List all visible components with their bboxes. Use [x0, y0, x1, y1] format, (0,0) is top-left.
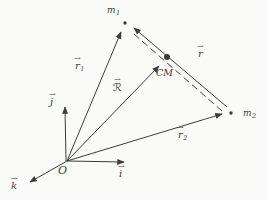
label-origin: O: [58, 165, 67, 176]
label-j-unit-vector: →j: [50, 97, 53, 107]
label-m1-base: m: [107, 5, 116, 15]
r1-position-vector-line: [67, 32, 121, 161]
vector-arrow-accent: →: [74, 56, 81, 62]
label-m2-sub: 2: [252, 112, 256, 120]
label-center-of-mass: CM: [156, 68, 173, 78]
m2-point: [229, 111, 232, 114]
label-m2-base: m: [243, 108, 252, 118]
vector-arrow-accent: →: [10, 176, 18, 182]
vector-arrow-accent: →: [118, 164, 123, 170]
label-m2: m2: [243, 109, 256, 118]
m1-m2-dashed-line: [134, 34, 222, 111]
vector-arrow-accent: →: [197, 44, 204, 50]
center-of-mass-point: [164, 54, 170, 60]
label-r1-vector: →r1: [75, 61, 84, 71]
label-r1-sub: 1: [80, 65, 84, 73]
i-unit-vector-line: [67, 161, 124, 162]
vector-arrow-accent: →: [177, 125, 184, 131]
label-k-unit-vector: →k: [11, 181, 17, 191]
diagram-canvas: [0, 0, 268, 200]
label-r2-vector: →r2: [178, 130, 187, 140]
label-i-unit-vector: →i: [119, 169, 122, 179]
j-unit-vector-line: [65, 107, 66, 161]
m1-point: [123, 21, 126, 24]
label-center-of-mass-vector: →ℛ: [113, 82, 122, 93]
label-m1-sub: 1: [116, 9, 120, 17]
vector-arrow-accent: →: [112, 77, 123, 83]
vector-arrow-accent: →: [49, 92, 54, 98]
label-R-base: ℛ: [113, 81, 122, 94]
r-relative-vector-line: [134, 28, 227, 107]
two-body-center-of-mass-diagram: m1 m2 →r1 →r2 →r →ℛ →i →j →k CM O: [0, 0, 268, 200]
label-m1: m1: [107, 6, 120, 15]
label-r-relative-vector: →r: [198, 49, 203, 59]
label-r2-sub: 2: [183, 134, 187, 142]
